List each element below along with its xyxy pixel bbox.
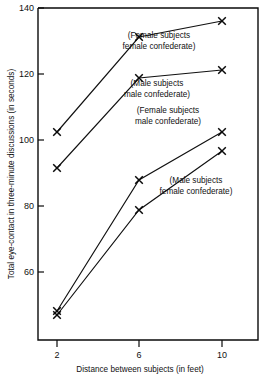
annotation-1-line-2: female confederate) (123, 42, 196, 51)
y-tick-label-120: 120 (19, 69, 34, 79)
line-chart-canvas: 140 120 100 80 60 2 6 10 Distance betwee… (0, 0, 266, 376)
series-3-marker-x6 (135, 176, 143, 184)
y-tick-label-140: 140 (19, 3, 34, 13)
x-axis-tick-labels: 2 6 10 (54, 350, 227, 360)
annotation-female-subjects-female-confederate: (Female subjects female confederate) (123, 31, 196, 51)
series-4-marker-x10 (218, 147, 226, 155)
series-4-marker-x6 (135, 206, 143, 214)
y-tick-label-60: 60 (24, 267, 34, 277)
annotation-2-line-2: male confederate) (124, 90, 190, 99)
annotation-female-subjects-male-confederate: (Female subjects male confederate) (135, 106, 201, 126)
chart-figure: 140 120 100 80 60 2 6 10 Distance betwee… (0, 0, 266, 376)
series-3-marker-x10 (218, 128, 226, 136)
x-axis-ticks (57, 340, 222, 347)
annotation-3-line-1: (Female subjects (137, 106, 199, 115)
y-tick-label-100: 100 (19, 135, 34, 145)
annotation-4-line-2: female confederate) (160, 187, 233, 196)
series-1-marker-x2 (53, 128, 61, 136)
y-axis-ticks (38, 8, 44, 272)
annotation-4-line-1: (Male subjects (170, 176, 223, 185)
x-tick-label-2: 2 (54, 350, 59, 360)
y-axis-tick-labels: 140 120 100 80 60 (19, 3, 34, 277)
x-tick-label-10: 10 (217, 350, 227, 360)
annotation-1-line-1: (Female subjects (128, 31, 190, 40)
annotation-3-line-2: male confederate) (135, 117, 201, 126)
y-tick-label-80: 80 (24, 201, 34, 211)
annotation-male-subjects-male-confederate: (Male subjects male confederate) (124, 79, 190, 99)
series-4-marker-x2 (53, 311, 61, 319)
x-axis-title: Distance between subjects (in feet) (76, 365, 204, 374)
annotation-2-line-1: (Male subjects (131, 79, 184, 88)
y-axis-title: Total eye-contact in three-minute discus… (7, 69, 16, 280)
annotation-male-subjects-female-confederate: (Male subjects female confederate) (160, 176, 233, 196)
series-male-subjects-female-confederate (53, 147, 226, 319)
x-tick-label-6: 6 (136, 350, 141, 360)
plot-frame (38, 8, 258, 340)
series-2-marker-x2 (53, 164, 61, 172)
